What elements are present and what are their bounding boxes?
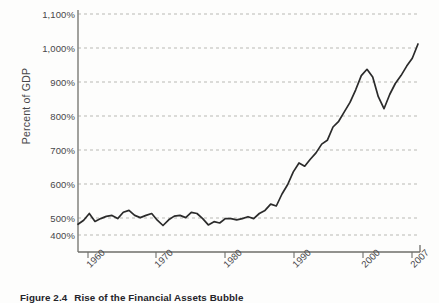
- figure-number: Figure 2.4: [20, 292, 67, 303]
- figure-caption: Figure 2.4Rise of the Financial Assets B…: [20, 292, 243, 303]
- figure-title: Rise of the Financial Assets Bubble: [74, 292, 243, 303]
- financial-assets-series-path: [78, 44, 418, 226]
